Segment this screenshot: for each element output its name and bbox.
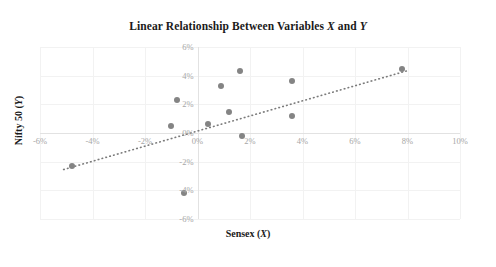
x-tick-label: 0% [192, 136, 203, 146]
y-tick-label: 4% [182, 71, 193, 81]
data-point [399, 66, 405, 72]
x-tick-label: -6% [33, 136, 47, 146]
data-point [289, 113, 295, 119]
data-point [237, 68, 243, 74]
chart-figure: Linear Relationship Between Variables X … [0, 0, 496, 267]
y-axis-title-var: Y [13, 99, 24, 105]
chart-title-var-x: X [327, 20, 335, 32]
y-axis-title-text: Nifty 50 ( [13, 105, 24, 145]
data-point [226, 109, 232, 115]
y-tick-label: 0% [182, 128, 193, 138]
chart-title: Linear Relationship Between Variables X … [0, 20, 496, 32]
trendline [40, 47, 460, 219]
x-tick-label: 10% [452, 136, 468, 146]
gridline-vertical [460, 47, 461, 219]
y-tick-label: -6% [179, 214, 193, 224]
y-tick-label: -4% [179, 185, 193, 195]
y-axis-title: Nifty 50 (Y) [13, 61, 24, 181]
chart-title-prefix: Linear Relationship Between Variables [129, 20, 327, 32]
x-axis-title-text: Sensex ( [226, 228, 261, 239]
chart-title-var-y: Y [360, 20, 367, 32]
chart-title-conjunction: and [335, 20, 360, 32]
data-point [218, 83, 224, 89]
y-tick-label: 6% [182, 42, 193, 52]
x-tick-label: 4% [297, 136, 308, 146]
gridline-horizontal [40, 219, 460, 220]
x-axis-title: Sensex (X) [0, 228, 496, 239]
x-tick-label: 8% [402, 136, 413, 146]
plot-area: -6%-4%-2%0%2%4%6%8%10% 6%4%2%0%-2%-4%-6% [40, 47, 460, 219]
x-tick-label: -2% [138, 136, 152, 146]
data-point [69, 163, 75, 169]
y-tick-label: 2% [182, 99, 193, 109]
x-axis-title-close: ) [267, 228, 270, 239]
x-tick-label: 6% [349, 136, 360, 146]
x-tick-label: 2% [244, 136, 255, 146]
data-point [174, 97, 180, 103]
y-axis-title-close: ) [13, 96, 24, 99]
x-tick-label: -4% [85, 136, 99, 146]
y-tick-label: -2% [179, 157, 193, 167]
